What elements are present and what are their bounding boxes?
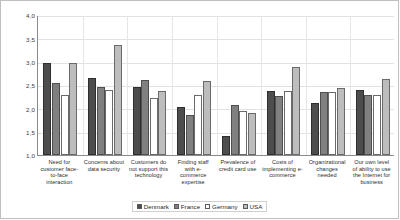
bar[interactable] xyxy=(267,91,275,155)
bar[interactable] xyxy=(150,98,158,155)
bar[interactable] xyxy=(356,90,364,155)
y-axis-tick-label: 2,0 xyxy=(3,106,35,113)
bar[interactable] xyxy=(88,78,96,155)
bar[interactable] xyxy=(292,67,300,155)
category-label: Concerns aboutdata security xyxy=(82,159,127,172)
bar-group xyxy=(38,16,83,155)
bar[interactable] xyxy=(248,113,256,155)
category-label: Our own levelof ability to usethe Intern… xyxy=(349,159,394,185)
y-axis: 4,03,53,02,52,01,51,0 xyxy=(1,16,35,156)
bar[interactable] xyxy=(231,105,239,155)
bar[interactable] xyxy=(275,96,283,155)
bar[interactable] xyxy=(133,87,141,155)
category-label-line: business xyxy=(349,179,394,186)
bar[interactable] xyxy=(337,88,345,155)
bar[interactable] xyxy=(114,45,122,155)
legend-swatch-icon xyxy=(243,204,248,209)
category-label-line: expertise xyxy=(171,179,216,186)
category-label-line: Our own level xyxy=(349,159,394,166)
category-label-line: not support this xyxy=(126,166,171,173)
bar[interactable] xyxy=(61,95,69,155)
bar[interactable] xyxy=(43,63,51,155)
bar[interactable] xyxy=(69,63,77,155)
category-axis-labels: Need forcustomer face-to-faceinteraction… xyxy=(37,159,394,195)
bar[interactable] xyxy=(177,107,185,155)
legend-item-germany[interactable]: Germany xyxy=(205,203,237,210)
category-label-line: needed xyxy=(305,172,350,179)
bar[interactable] xyxy=(186,115,194,155)
y-axis-tick-label: 4,0 xyxy=(3,12,35,19)
legend: DenmarkFranceGermanyUSA xyxy=(1,201,398,212)
category-label-line: Finding staff xyxy=(171,159,216,166)
category-label-line: Need for xyxy=(37,159,82,166)
bar[interactable] xyxy=(311,103,319,155)
bar[interactable] xyxy=(382,79,390,155)
bar-group xyxy=(127,16,172,155)
legend-swatch-icon xyxy=(205,204,210,209)
plot-area xyxy=(37,16,394,156)
legend-box: DenmarkFranceGermanyUSA xyxy=(132,201,268,212)
bar[interactable] xyxy=(141,80,149,155)
bar[interactable] xyxy=(364,95,372,155)
category-label-line: data security xyxy=(82,166,127,173)
y-axis-tick-label: 3,5 xyxy=(3,36,35,43)
bar[interactable] xyxy=(203,81,211,155)
category-label-line: commerce xyxy=(260,172,305,179)
legend-item-label: Denmark xyxy=(144,203,169,210)
category-label: Prevalence ofcredit card use xyxy=(216,159,261,172)
legend-item-usa[interactable]: USA xyxy=(243,203,263,210)
category-label: Need forcustomer face-to-faceinteraction xyxy=(37,159,82,185)
legend-item-label: USA xyxy=(250,203,263,210)
bar[interactable] xyxy=(158,91,166,155)
y-axis-tick-label: 1,5 xyxy=(3,129,35,136)
category-label-line: Costs of xyxy=(260,159,305,166)
legend-item-label: Germany xyxy=(212,203,237,210)
category-label-line: technology xyxy=(126,172,171,179)
category-label-line: changes xyxy=(305,166,350,173)
bar[interactable] xyxy=(194,95,202,155)
category-label-line: to-face xyxy=(37,172,82,179)
category-label-line: Concerns about xyxy=(82,159,127,166)
category-label-line: Prevalence of xyxy=(216,159,261,166)
legend-swatch-icon xyxy=(137,204,142,209)
category-label: Costs ofimplementing e-commerce xyxy=(260,159,305,179)
category-label: Organizationalchangesneeded xyxy=(305,159,350,179)
bar[interactable] xyxy=(97,87,105,155)
legend-item-denmark[interactable]: Denmark xyxy=(137,203,169,210)
category-label-line: of ability to use xyxy=(349,166,394,173)
legend-item-label: France xyxy=(181,203,200,210)
category-label: Finding staffwith e-commerceexpertise xyxy=(171,159,216,185)
bar[interactable] xyxy=(373,95,381,155)
bar[interactable] xyxy=(105,90,113,155)
bar-group xyxy=(306,16,351,155)
y-axis-tick-label: 2,5 xyxy=(3,82,35,89)
legend-item-france[interactable]: France xyxy=(174,203,200,210)
bar-group xyxy=(83,16,128,155)
bar[interactable] xyxy=(239,111,247,155)
category-label-line: Customers do xyxy=(126,159,171,166)
y-axis-tick-label: 3,0 xyxy=(3,59,35,66)
category-label-line: with e- xyxy=(171,166,216,173)
category-label-line: commerce xyxy=(171,172,216,179)
bar-group xyxy=(217,16,262,155)
category-label-line: implementing e- xyxy=(260,166,305,173)
category-label-line: Organizational xyxy=(305,159,350,166)
y-axis-tick-label: 1,0 xyxy=(3,152,35,159)
category-label: Customers donot support thistechnology xyxy=(126,159,171,179)
category-label-line: credit card use xyxy=(216,166,261,173)
bar[interactable] xyxy=(320,92,328,155)
bar[interactable] xyxy=(222,136,230,155)
bar[interactable] xyxy=(52,83,60,155)
bar-group xyxy=(350,16,395,155)
bar[interactable] xyxy=(284,91,292,155)
legend-swatch-icon xyxy=(174,204,179,209)
category-label-line: interaction xyxy=(37,179,82,186)
bar-group xyxy=(261,16,306,155)
category-label-line: the Internet for xyxy=(349,172,394,179)
bar[interactable] xyxy=(328,92,336,155)
category-label-line: customer face- xyxy=(37,166,82,173)
chart-frame: 4,03,53,02,52,01,51,0 Need forcustomer f… xyxy=(0,0,399,219)
bar-group xyxy=(172,16,217,155)
